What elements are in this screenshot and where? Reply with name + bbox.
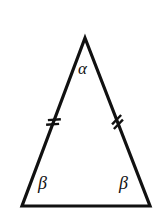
apex-angle-label-alpha: α bbox=[78, 60, 87, 77]
base-angle-label-beta-left: β bbox=[38, 174, 47, 192]
tick-mark-left-1 bbox=[48, 119, 61, 120]
triangle-diagram-canvas bbox=[0, 0, 161, 222]
geometry-figure: α β β bbox=[0, 0, 161, 222]
base-angle-label-beta-right: β bbox=[119, 174, 128, 192]
tick-mark-left-2 bbox=[46, 124, 59, 125]
